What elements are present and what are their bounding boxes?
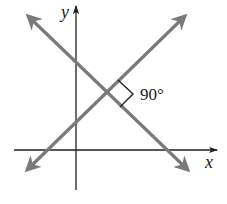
angle-label: 90°	[140, 85, 164, 104]
x-axis-label: x	[204, 152, 213, 172]
y-axis-label: y	[59, 2, 69, 22]
coordinate-diagram: y x 90°	[0, 0, 227, 204]
